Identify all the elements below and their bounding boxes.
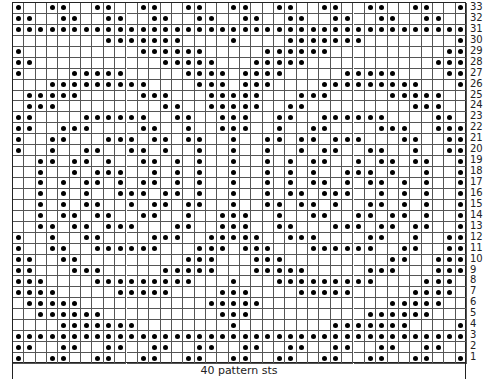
chart-cell — [206, 36, 217, 47]
chart-cell — [24, 211, 35, 222]
dot-icon — [243, 213, 248, 218]
dot-icon — [141, 115, 146, 120]
dot-icon — [322, 290, 327, 295]
chart-cell — [274, 189, 285, 200]
chart-cell — [456, 266, 467, 277]
dot-icon — [277, 356, 282, 361]
chart-cell — [217, 178, 228, 189]
chart-cell — [92, 178, 103, 189]
dot-icon — [106, 356, 111, 361]
chart-cell — [70, 287, 81, 298]
chart-cell — [13, 101, 24, 112]
chart-cell — [58, 14, 69, 25]
dot-icon — [333, 202, 338, 207]
dot-icon — [106, 334, 111, 339]
chart-cell — [13, 276, 24, 287]
chart-cell — [161, 287, 172, 298]
chart-cell — [251, 309, 262, 320]
chart-cell — [70, 211, 81, 222]
dot-icon — [231, 334, 236, 339]
chart-cell — [127, 123, 138, 134]
chart-cell — [422, 320, 433, 331]
chart-row — [13, 156, 467, 167]
chart-cell — [149, 287, 160, 298]
chart-cell — [342, 331, 353, 342]
chart-cell — [217, 91, 228, 102]
chart-cell — [217, 255, 228, 266]
dot-icon — [197, 246, 202, 251]
dot-icon — [118, 137, 123, 142]
chart-cell — [138, 112, 149, 123]
chart-cell — [285, 233, 296, 244]
dot-icon — [458, 213, 463, 218]
chart-cell — [319, 244, 330, 255]
dot-icon — [379, 148, 384, 153]
chart-cell — [92, 244, 103, 255]
chart-cell — [206, 178, 217, 189]
dot-icon — [356, 279, 361, 284]
dot-icon — [16, 60, 21, 65]
chart-row — [13, 276, 467, 287]
chart-cell — [161, 189, 172, 200]
chart-cell — [365, 91, 376, 102]
dot-icon — [243, 93, 248, 98]
chart-cell — [92, 222, 103, 233]
chart-cell — [263, 342, 274, 353]
chart-cell — [433, 200, 444, 211]
chart-cell — [217, 309, 228, 320]
dot-icon — [390, 27, 395, 32]
dot-icon — [220, 104, 225, 109]
chart-cell — [138, 25, 149, 36]
dot-icon — [84, 126, 89, 131]
chart-cell — [263, 123, 274, 134]
dot-icon — [38, 312, 43, 317]
chart-cell — [376, 178, 387, 189]
chart-cell — [217, 47, 228, 58]
dot-icon — [197, 268, 202, 273]
dot-icon — [322, 5, 327, 10]
dot-icon — [413, 246, 418, 251]
dot-icon — [254, 82, 259, 87]
dot-icon — [95, 334, 100, 339]
chart-cell — [36, 266, 47, 277]
dot-icon — [458, 82, 463, 87]
chart-cell — [422, 25, 433, 36]
chart-cell — [183, 69, 194, 80]
dot-icon — [311, 334, 316, 339]
dot-icon — [402, 301, 407, 306]
dot-icon — [197, 148, 202, 153]
dot-icon — [436, 16, 441, 21]
chart-cell — [342, 36, 353, 47]
chart-cell — [285, 156, 296, 167]
dot-icon — [95, 115, 100, 120]
dot-icon — [118, 27, 123, 32]
dot-icon — [356, 115, 361, 120]
dot-icon — [16, 334, 21, 339]
chart-cell — [263, 244, 274, 255]
dot-icon — [16, 16, 21, 21]
chart-cell — [331, 101, 342, 112]
dot-icon — [129, 224, 134, 229]
chart-cell — [410, 233, 421, 244]
dot-icon — [311, 202, 316, 207]
chart-cell — [127, 69, 138, 80]
chart-cell — [297, 123, 308, 134]
chart-cell — [92, 331, 103, 342]
chart-cell — [115, 123, 126, 134]
chart-cell — [365, 3, 376, 14]
chart-cell — [47, 80, 58, 91]
dot-icon — [106, 71, 111, 76]
dot-icon — [458, 257, 463, 262]
chart-cell — [127, 276, 138, 287]
dot-icon — [345, 323, 350, 328]
chart-cell — [47, 331, 58, 342]
dot-icon — [197, 5, 202, 10]
chart-row — [13, 178, 467, 189]
dot-icon — [106, 279, 111, 284]
chart-cell — [172, 145, 183, 156]
chart-cell — [433, 36, 444, 47]
chart-cell — [206, 80, 217, 91]
chart-cell — [274, 134, 285, 145]
chart-cell — [444, 58, 455, 69]
chart-cell — [24, 320, 35, 331]
